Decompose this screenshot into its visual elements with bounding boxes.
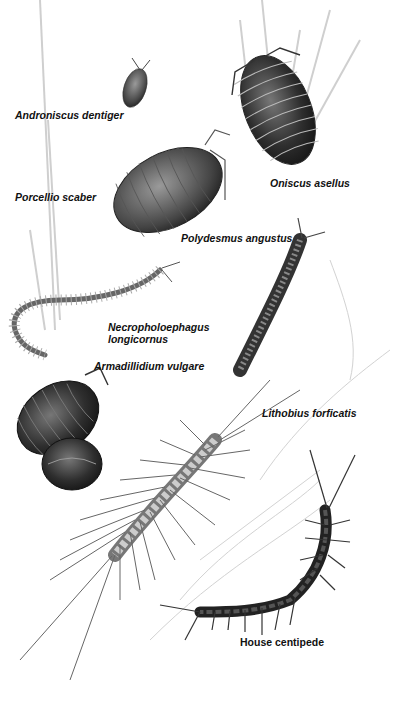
label-lithobius-forficatis: Lithobius forficatis xyxy=(262,408,357,419)
label-polydesmus-angustus: Polydesmus angustus xyxy=(181,233,292,244)
label-androniscus-dentiger: Androniscus dentiger xyxy=(15,110,124,121)
label-house-centipede: House centipede xyxy=(240,637,324,648)
label-armadillidium-vulgare: Armadillidium vulgare xyxy=(94,361,204,372)
label-oniscus-asellus: Oniscus asellus xyxy=(270,178,350,189)
armadillidium-vulgare-drawing xyxy=(3,366,113,490)
label-necropholoephagus-line1: Necropholoephagus xyxy=(108,322,210,333)
illustration xyxy=(0,0,397,716)
androniscus-dentiger-drawing xyxy=(118,58,151,110)
label-porcellio-scaber: Porcellio scaber xyxy=(15,192,96,203)
label-necropholoephagus-line2: longicornus xyxy=(108,334,168,345)
